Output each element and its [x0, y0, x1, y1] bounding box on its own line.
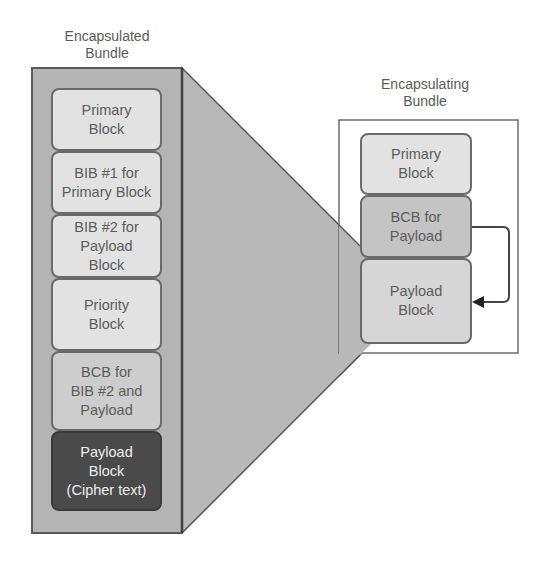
encapsulated-primary-block: Primary Block: [51, 88, 162, 151]
encapsulated-bundle-title: Encapsulated Bundle: [32, 28, 182, 62]
encapsulated-priority-block: Priority Block: [51, 278, 162, 351]
encapsulating-primary-block: Primary Block: [360, 133, 472, 195]
encapsulated-bcb-block: BCB for BIB #2 and Payload: [51, 351, 162, 431]
encapsulating-bundle-title: Encapsulating Bundle: [355, 76, 495, 110]
encapsulating-payload-block: Payload Block: [360, 258, 472, 344]
encapsulating-bcb-block: BCB for Payload: [360, 195, 472, 258]
encapsulated-payload-block: Payload Block (Cipher text): [51, 431, 162, 511]
encapsulated-bib1-block: BIB #1 for Primary Block: [51, 151, 162, 214]
encapsulated-bib2-block: BIB #2 for Payload Block: [51, 214, 162, 278]
